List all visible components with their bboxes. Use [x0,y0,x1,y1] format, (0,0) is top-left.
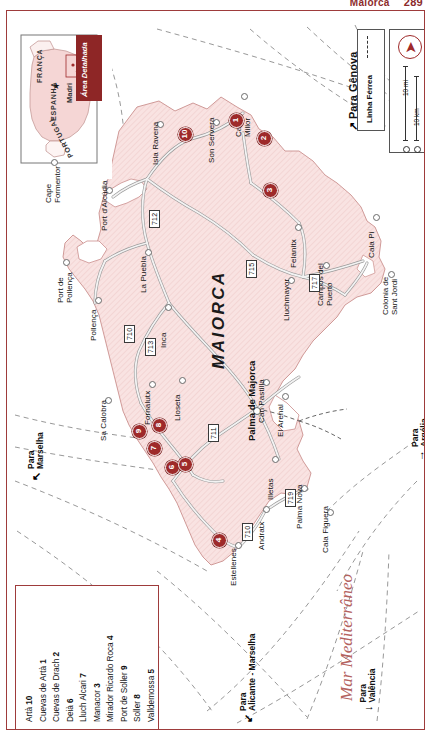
town-label: La Puebla [139,256,148,293]
town-label: Felanitx [289,239,298,268]
inset-area-detalhada-box: Área Detalhada [76,35,102,101]
poi-marker[interactable]: 8 [152,418,167,433]
town-dot [179,377,186,384]
town-label: Lloseta [173,395,182,422]
poi-index-number: 10 [25,696,34,707]
poi-index-name: Mirador Ricardo Roca [106,642,115,722]
direction-label: ↓ParaValência [359,668,377,711]
road-shield: 710 [124,325,135,343]
road-shield: 711 [208,424,219,442]
town-label: Son Servera [207,117,216,163]
town-label: Colonia deSant Jordi [382,277,399,315]
town-dot [295,224,302,231]
town-label: Inca [159,332,168,348]
town-label: El Arenal [276,404,285,437]
island-name-label: MAIORCA [209,270,229,369]
town-label: Palma Nova [295,484,304,529]
poi-index-box: Artà 10Cuevas de Artà 1Cuevas de Drach 2… [15,585,159,730]
poi-index-name: Deià [66,705,75,722]
poi-index-name: Cuevas de Drach [52,659,61,722]
scale-bar-km-tick-top [414,76,419,77]
poi-marker[interactable]: 2 [257,131,272,146]
direction-label-text: ParaArgélia [411,418,425,447]
scale-origin-miles [403,146,410,153]
poi-marker[interactable]: 10 [178,127,193,142]
capital-city-text: Palma de Majorca [247,361,257,441]
town-label: Isla Ravena [151,122,160,165]
poi-marker-number: 1 [232,118,240,122]
page-header-title: Maiorca [350,0,390,8]
poi-index-row: Valldemossa 5 [147,669,156,722]
poi-marker[interactable]: 4 [212,533,227,548]
town-dot [272,456,279,463]
direction-arrow-icon: ↙ [243,714,254,723]
town-dot [165,304,172,311]
page-header: Maiorca 289 [350,0,423,8]
poi-index-row: Cuevas de Artà 1 [39,659,48,722]
direction-label-text: ParaValência [359,668,377,702]
direction-label-text: ParaMarselha [27,432,45,469]
poi-index-name: Soller [133,701,142,722]
town-label: Illetas [266,478,275,500]
scale-bar-miles-line [405,66,406,140]
poi-index-row: Soller 8 [133,694,142,722]
scale-label-miles: 10 mi [402,80,409,96]
poi-index-name: Port de Soller [120,672,129,722]
poi-index-number: 6 [66,698,75,705]
poi-index-number: 9 [120,666,129,673]
poi-marker[interactable]: 9 [132,424,147,439]
town-dot [149,381,156,388]
town-label: Cala Figuera [321,506,330,553]
town-dot [263,506,270,513]
inset-label-franca: FRANÇA [36,49,43,83]
town-dot [95,297,102,304]
scale-bar-miles-tick-top [403,66,408,67]
direction-label: ↖ParaMarselha [27,432,45,481]
poi-marker[interactable]: 5 [178,457,193,472]
sea-name-text: Mar Mediterrâneo [337,574,356,701]
capital-city-label: Palma de Majorca [247,361,257,441]
poi-index-row: Cuevas de Drach 2 [52,652,61,722]
poi-index-name: Manacor [93,690,102,722]
north-arrow-icon: ➤ [398,35,422,59]
town-dot [63,259,70,266]
poi-index-number: 3 [93,683,102,690]
town-label: Cala Pi [367,232,376,259]
poi-marker[interactable]: 7 [147,441,162,456]
scale-bar-miles-tick-bottom [403,140,408,141]
legend-railway: Linha Férrea [357,29,385,131]
town-label: Pollença [89,310,98,342]
legend-railway-label: Linha Férrea [365,75,374,123]
poi-marker-number: 3 [266,188,274,192]
direction-label: ↙ParaAlicante - Marselha [239,634,257,723]
poi-index-name: Artà [25,707,34,722]
direction-label: ↗Para Gênova [347,52,359,131]
poi-marker[interactable]: 1 [229,113,244,128]
poi-marker-number: 9 [135,429,143,433]
town-dot [145,249,152,256]
scale-origin-km [414,146,421,153]
direction-arrow-icon: ↖ [31,472,42,481]
poi-marker-number: 2 [260,136,268,140]
legend-scale: ➤ 10 mi 10 km [389,29,425,153]
poi-marker[interactable]: 3 [263,183,278,198]
poi-marker-number: 5 [181,462,189,466]
road-shield: 717 [309,274,320,292]
scale-label-km: 10 km [413,108,420,126]
town-dot [373,214,380,221]
poi-index-row: Port de Soller 9 [120,666,129,722]
poi-index-row: Manacor 3 [93,683,102,722]
poi-index-number: 4 [106,636,115,643]
poi-index-number: 7 [79,673,88,680]
town-label: CapeFormentor [45,166,62,203]
direction-label: →ParaArgélia [411,418,425,461]
map-frame: ★ FRANÇA ESPANHA PORTUGAL Madri Área Det… [6,10,425,730]
poi-index-number: 2 [52,652,61,659]
town-label: Can Pastilla [257,379,266,423]
scale-bar-km-tick-bottom [414,140,419,141]
town-label: Port d'Alcúdia [100,180,109,231]
town-label: Lluchmayor [282,279,291,321]
railway-symbol-icon [367,36,368,58]
poi-marker-number: 8 [155,423,163,427]
town-label: Estellenes [229,548,238,586]
